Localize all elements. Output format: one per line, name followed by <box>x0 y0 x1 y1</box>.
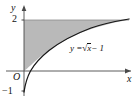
math-figure: y x 2 O −1 y =√x− 1 <box>0 0 139 101</box>
curve-equation-label: y =√x− 1 <box>70 43 104 53</box>
equation-radicand: x <box>87 43 91 53</box>
x-axis-label: x <box>127 74 131 84</box>
y-axis-arrow-icon <box>22 5 27 11</box>
square-root-icon: √x <box>82 43 91 53</box>
y-axis-label: y <box>11 3 15 13</box>
equation-rhs: − 1 <box>91 43 104 53</box>
equation-lhs: y = <box>70 43 82 53</box>
tick-label-2: 2 <box>12 14 17 24</box>
tick-label-negative-1: −1 <box>2 86 13 96</box>
radical-bar <box>87 43 91 44</box>
origin-label: O <box>13 72 20 82</box>
